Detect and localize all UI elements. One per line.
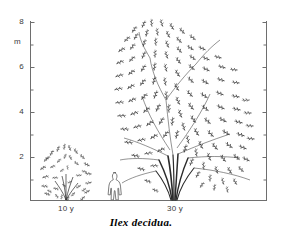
y-axis-ticks [31,23,267,181]
y-axis-unit-label: m [14,37,21,46]
tree-30y-trunks [156,154,194,200]
axis-group [30,21,267,201]
human-silhouette-icon [108,173,121,200]
y-tick-label-8: 8 [10,17,24,26]
y-tick-label-6: 6 [10,62,24,71]
ilex-decidua-growth-figure [0,0,282,239]
specimen-10y [39,143,92,201]
tree-30y-branches [120,32,250,183]
y-tick-label-2: 2 [10,152,24,161]
x-label-10y: 10 y [48,204,84,213]
shrub-10y-stems [55,174,78,200]
x-label-30y: 30 y [155,204,195,213]
specimen-30y [114,19,255,200]
y-tick-label-4: 4 [10,107,24,116]
figure-caption: Ilex decidua. [0,216,282,228]
